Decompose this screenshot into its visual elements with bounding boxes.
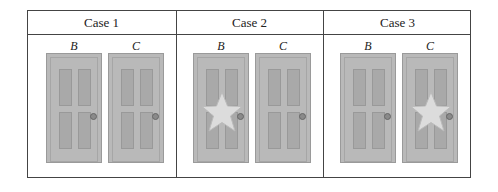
door-c-case-2 <box>255 53 311 163</box>
door-label: C <box>255 39 311 54</box>
door-label: C <box>108 39 164 54</box>
door-knob-icon <box>299 113 306 120</box>
door-label: C <box>402 39 458 54</box>
case-2-title: Case 2 <box>176 15 323 31</box>
door-c-case-1 <box>108 53 164 163</box>
star-icon <box>409 91 453 133</box>
door-c-case-3 <box>402 53 458 163</box>
door-label: B <box>340 39 396 54</box>
door-label: B <box>46 39 102 54</box>
door-knob-icon <box>152 113 159 120</box>
door-label: B <box>193 39 249 54</box>
door-b-case-3 <box>340 53 396 163</box>
case-1-title: Case 1 <box>28 15 175 31</box>
cases-table: Case 1 Case 2 Case 3 B C B C B C <box>27 10 471 178</box>
door-b-case-1 <box>46 53 102 163</box>
column-divider <box>323 11 324 177</box>
star-icon <box>200 91 244 133</box>
door-b-case-2 <box>193 53 249 163</box>
case-3-title: Case 3 <box>324 15 471 31</box>
door-knob-icon <box>384 113 391 120</box>
door-knob-icon <box>90 113 97 120</box>
column-divider <box>176 11 177 177</box>
